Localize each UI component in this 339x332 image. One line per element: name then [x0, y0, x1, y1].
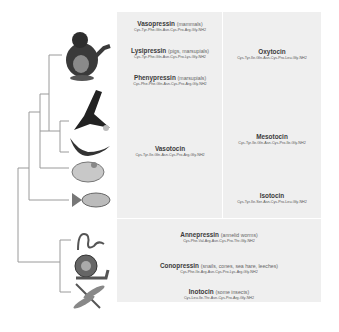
eagle-icon	[66, 88, 114, 136]
dragonfly-icon	[70, 280, 110, 314]
phylogenetic-tree	[0, 0, 339, 332]
salamander-icon	[68, 136, 112, 160]
gorilla-icon	[60, 28, 118, 82]
worm-icon	[74, 230, 108, 252]
snail-icon	[70, 252, 110, 280]
fish-icon	[70, 190, 114, 210]
frog-icon	[70, 158, 106, 184]
